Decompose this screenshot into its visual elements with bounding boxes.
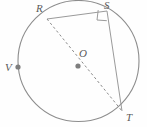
geometry-figure: R S O V T	[0, 0, 147, 127]
point-dot-V	[15, 64, 20, 69]
point-label-o: O	[79, 48, 87, 59]
point-label-r: R	[36, 3, 43, 14]
point-label-v: V	[5, 62, 12, 73]
point-dot-O	[75, 63, 80, 68]
geometry-canvas	[0, 0, 147, 127]
point-label-s: S	[104, 0, 110, 11]
segment-ST	[107, 11, 122, 111]
point-label-t: T	[126, 112, 132, 123]
